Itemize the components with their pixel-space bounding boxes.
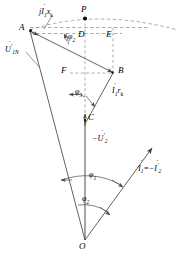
angle-label-phi3-middle: φ3 (75, 88, 82, 98)
vector-symbol-I2: ̇I (154, 165, 157, 173)
vector-symbol-jI1xk: ̇I (41, 8, 44, 16)
point-label-D: D (78, 30, 85, 39)
vector-label-I1-equals-minus-I2-prime: ̇I1=−̇I′2 (138, 162, 161, 175)
angle-sub-phi2-top: 2 (72, 37, 75, 43)
phasor-diagram-container: A P D E F B C O φ2 φ3 φ1 φ2 j̇I1xk ̇U′1N… (0, 0, 184, 264)
point-marker-C (84, 119, 86, 121)
point-marker-P (83, 16, 87, 20)
vector-symbol-I1rk: ̇I (112, 87, 115, 95)
point-label-E: E (106, 30, 112, 39)
point-label-B: B (118, 66, 124, 75)
angle-label-phi2-top: φ2 (68, 33, 75, 43)
vector-label-I1rk: ̇I1rk (112, 87, 123, 97)
point-label-F: F (61, 66, 67, 75)
angle-sub-phi3: 3 (79, 92, 82, 98)
angle-sub-phi2-bottom: 2 (86, 199, 89, 205)
point-label-P: P (81, 5, 87, 14)
phasor-A-to-O (30, 31, 85, 240)
vector-label-U1N-prime: ̇U′1N (5, 43, 19, 56)
vector-label-minus-U2-prime: −̇U′2 (92, 132, 107, 145)
vector-sub-I2: 2 (158, 168, 161, 174)
vector-symbol-I1: ̇I (138, 165, 141, 173)
vector-symbol-U2: ̇U (97, 135, 103, 143)
construction-arc (30, 19, 178, 30)
point-label-A: A (19, 23, 25, 32)
angle-arc-phi2-bottom (78, 205, 108, 212)
angle-label-phi1-bottom: φ1 (89, 171, 96, 181)
vector-tailsub-I1rk: k (121, 91, 124, 97)
point-label-C: C (88, 113, 94, 122)
point-marker-B (111, 71, 113, 73)
vector-sub-U2: 2 (105, 138, 108, 144)
angle-arc-phi3-tick-right (86, 96, 95, 107)
angle-sub-phi1: 1 (93, 175, 96, 181)
angle-arc-phi1-tick-right (112, 180, 123, 187)
vector-equals-sign: =− (143, 164, 154, 173)
vector-label-jI1xk: j̇I1xk (39, 8, 53, 18)
vector-symbol-U1N: ̇U (5, 46, 11, 54)
angle-arc-phi2-top-tick (65, 34, 67, 41)
vector-sub-U1N: 1N (12, 49, 18, 55)
vector-tailsub-jI1xk: k (50, 12, 53, 18)
point-label-O: O (79, 242, 86, 251)
angle-label-phi2-bottom: φ2 (82, 195, 89, 205)
